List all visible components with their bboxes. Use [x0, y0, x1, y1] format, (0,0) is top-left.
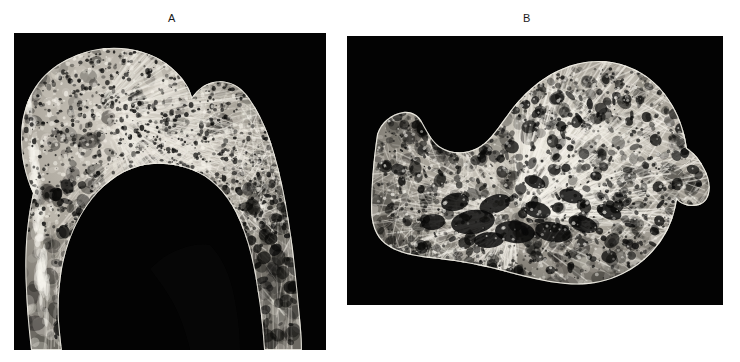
figure-page: A B	[0, 0, 740, 362]
femur-section-image	[14, 33, 326, 350]
panel-label-b: B	[515, 12, 539, 24]
panel-label-a: A	[160, 12, 184, 24]
calcaneus-section-image	[347, 36, 723, 305]
figure-panel-a-proximal-femur	[14, 33, 326, 350]
figure-panel-b-calcaneus	[347, 36, 723, 305]
